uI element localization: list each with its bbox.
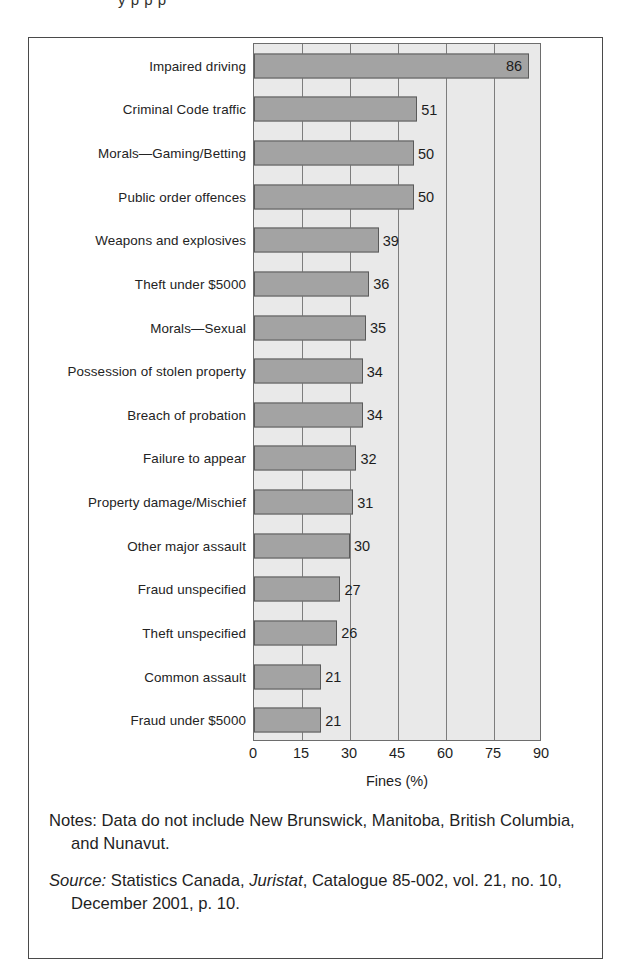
bar-row: Failure to appear32	[254, 437, 540, 481]
category-label: Other major assault	[127, 538, 246, 553]
bar-row: Fraud under $500021	[254, 698, 540, 742]
bar-value-label: 27	[344, 581, 360, 597]
bar-value-label: 26	[341, 625, 357, 641]
bar-row: Morals—Gaming/Betting50	[254, 131, 540, 175]
bar-value-label: 34	[367, 407, 383, 423]
bar-value-label: 35	[370, 320, 386, 336]
bar: 51	[254, 97, 417, 122]
x-tick-30: 30	[341, 745, 357, 761]
category-label: Fraud under $5000	[130, 713, 246, 728]
category-label: Property damage/Mischief	[88, 495, 246, 510]
bar-value-label: 36	[373, 276, 389, 292]
bar-value-label: 86	[506, 58, 522, 74]
x-tick-0: 0	[249, 745, 257, 761]
bar-row: Possession of stolen property34	[254, 349, 540, 393]
bar-row: Theft unspecified26	[254, 611, 540, 655]
bar-value-label: 34	[367, 363, 383, 379]
clipped-title-text: y p p p	[118, 0, 167, 8]
bar-row: Impaired driving86	[254, 44, 540, 88]
bar: 50	[254, 184, 414, 209]
bar: 30	[254, 533, 350, 558]
x-tick-15: 15	[293, 745, 309, 761]
bar: 26	[254, 620, 337, 645]
bar: 86	[254, 53, 529, 78]
bar-value-label: 31	[357, 494, 373, 510]
bar: 34	[254, 402, 363, 427]
x-tick-60: 60	[437, 745, 453, 761]
bar-value-label: 39	[383, 232, 399, 248]
bar-chart: Impaired driving86Criminal Code traffic5…	[29, 38, 604, 803]
clipped-title-remnant: y p p p	[0, 0, 631, 8]
category-label: Fraud unspecified	[138, 582, 246, 597]
bar-value-label: 32	[360, 450, 376, 466]
notes-block: Notes: Data do not include New Brunswick…	[49, 810, 585, 856]
bar-value-label: 51	[421, 101, 437, 117]
category-label: Criminal Code traffic	[123, 102, 246, 117]
source-publication-title: Juristat	[249, 871, 302, 890]
category-label: Weapons and explosives	[95, 233, 246, 248]
bar-row: Theft under $500036	[254, 262, 540, 306]
source-block: Source: Statistics Canada, Juristat, Cat…	[49, 870, 585, 916]
x-axis-title: Fines (%)	[253, 773, 541, 789]
x-tick-90: 90	[533, 745, 549, 761]
bar: 31	[254, 490, 353, 515]
bar-value-label: 21	[325, 712, 341, 728]
x-axis-tick-labels: 0153045607590	[253, 745, 541, 767]
bar-row: Morals—Sexual35	[254, 306, 540, 350]
footnotes: Notes: Data do not include New Brunswick…	[49, 810, 585, 930]
bar-row: Property damage/Mischief31	[254, 480, 540, 524]
bar: 39	[254, 228, 379, 253]
bar: 21	[254, 708, 321, 733]
category-label: Failure to appear	[143, 451, 246, 466]
bar-value-label: 30	[354, 538, 370, 554]
category-label: Theft unspecified	[142, 625, 246, 640]
category-label: Breach of probation	[127, 407, 246, 422]
bar: 35	[254, 315, 366, 340]
category-label: Possession of stolen property	[67, 364, 246, 379]
bar-row: Other major assault30	[254, 524, 540, 568]
bar-row: Common assault21	[254, 655, 540, 699]
x-tick-45: 45	[389, 745, 405, 761]
notes-lead: Notes:	[49, 811, 97, 830]
bar-row: Criminal Code traffic51	[254, 88, 540, 132]
bar-row: Fraud unspecified27	[254, 568, 540, 612]
bar: 32	[254, 446, 356, 471]
category-label: Morals—Gaming/Betting	[98, 146, 246, 161]
bar-value-label: 21	[325, 669, 341, 685]
x-tick-75: 75	[485, 745, 501, 761]
bar: 36	[254, 271, 369, 296]
bar: 34	[254, 359, 363, 384]
bar: 50	[254, 141, 414, 166]
bar: 21	[254, 664, 321, 689]
bar-row: Weapons and explosives39	[254, 219, 540, 263]
source-lead: Source:	[49, 871, 106, 890]
category-label: Morals—Sexual	[150, 320, 246, 335]
bar-rows: Impaired driving86Criminal Code traffic5…	[254, 44, 540, 740]
category-label: Impaired driving	[149, 58, 246, 73]
bar-row: Breach of probation34	[254, 393, 540, 437]
notes-text: Data do not include New Brunswick, Manit…	[71, 811, 575, 853]
figure-frame: Impaired driving86Criminal Code traffic5…	[28, 37, 603, 959]
source-text-before: Statistics Canada,	[111, 871, 249, 890]
category-label: Common assault	[144, 669, 246, 684]
bar-value-label: 50	[418, 189, 434, 205]
plot-area: Impaired driving86Criminal Code traffic5…	[253, 43, 541, 741]
category-label: Public order offences	[118, 189, 246, 204]
bar-value-label: 50	[418, 145, 434, 161]
bar-row: Public order offences50	[254, 175, 540, 219]
category-label: Theft under $5000	[135, 276, 246, 291]
bar: 27	[254, 577, 340, 602]
